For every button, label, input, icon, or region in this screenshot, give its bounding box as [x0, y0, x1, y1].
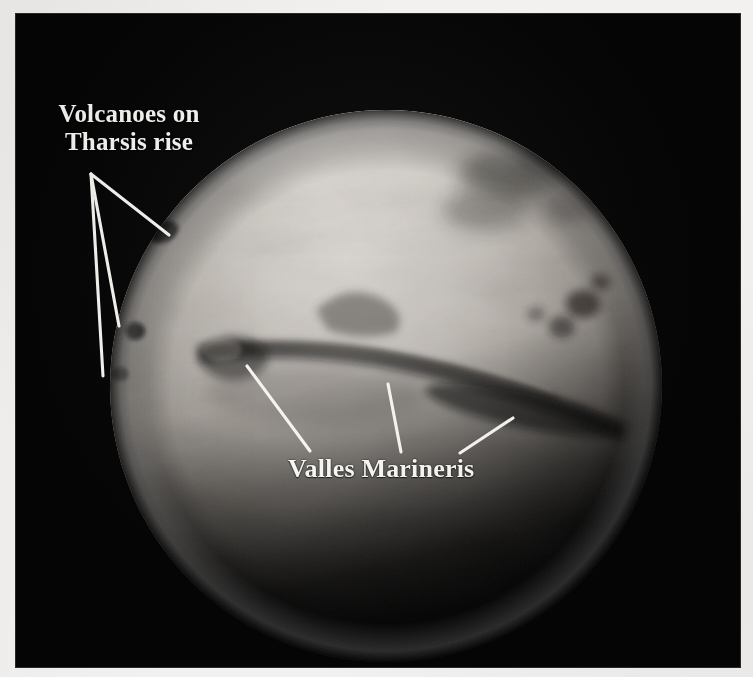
label-volcanoes-line-2: Tharsis rise [44, 128, 214, 156]
label-volcanoes-on-tharsis-rise: Volcanoes on Tharsis rise [44, 100, 214, 156]
mars-photograph-plate: Volcanoes on Tharsis rise Valles Mariner… [16, 14, 740, 667]
label-volcanoes-line-1: Volcanoes on [44, 100, 214, 128]
label-valles-marineris: Valles Marineris [288, 454, 474, 483]
mars-surface-detail [110, 88, 662, 662]
film-grain [110, 110, 662, 662]
scanned-figure-page: Volcanoes on Tharsis rise Valles Mariner… [0, 0, 753, 677]
